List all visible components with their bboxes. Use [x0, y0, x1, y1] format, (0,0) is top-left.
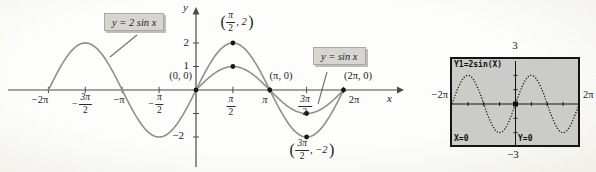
calc-ymax-label: 3: [512, 40, 518, 51]
point-label-3pi2-neg2: (3π2, −2): [289, 139, 335, 161]
x-tick-negpi2: −π2: [148, 93, 163, 115]
x-tick-negpi: −π: [113, 95, 124, 106]
fraction: π2: [155, 93, 164, 115]
fraction: 3π2: [295, 139, 309, 161]
minus-sign: −: [72, 99, 78, 109]
calc-formula: Y1=2sin(X): [454, 61, 502, 69]
coord-rest: , 2: [235, 17, 248, 28]
fraction: π2: [227, 95, 236, 117]
x-tick-pi: π: [262, 95, 267, 106]
x-tick-2pi: 2π: [349, 95, 360, 106]
x-axis-arrow: [397, 87, 404, 94]
open-paren: (: [290, 142, 295, 158]
open-paren: (: [221, 14, 226, 30]
callout-leader-lines: [110, 35, 327, 104]
coord-rest: , −2: [309, 145, 329, 156]
axes: [8, 13, 397, 167]
calculator-plot-canvas: [452, 59, 578, 145]
y-tick-2: 2: [168, 37, 189, 48]
fraction: π2: [226, 11, 235, 33]
point-label-pi2-2: (π2, 2): [220, 11, 254, 33]
calc-xmin-label: −2π: [424, 90, 448, 101]
minus-sign: −: [148, 99, 154, 109]
calc-y-readout: Y=0: [518, 135, 532, 143]
fraction: 3π2: [79, 93, 93, 115]
x-tick-neg3pi2: −3π2: [72, 93, 92, 115]
callout-y-2sinx: y = 2 sin x: [104, 13, 164, 31]
callout-y-2sinx-label: y = 2 sin x: [112, 17, 156, 28]
calc-x-readout: X=0: [454, 135, 468, 143]
callout-y-sinx: y = sin x: [313, 47, 366, 65]
fraction: 3π2: [298, 95, 312, 117]
x-tick-pi2: π2: [227, 95, 236, 117]
close-paren: ): [329, 142, 334, 158]
point-label-pi-0: (π, 0): [270, 71, 293, 82]
x-tick-neg2pi: −2π: [32, 95, 48, 106]
callout-y-sinx-label: y = sin x: [321, 51, 358, 62]
calc-xmax-label: 2π: [583, 90, 594, 101]
y-tick-neg2: −2: [163, 130, 184, 141]
point-label-origin: (0, 0): [148, 71, 192, 82]
x-tick-3pi2: 3π2: [298, 95, 312, 117]
y-axis-arrow: [193, 7, 200, 15]
calculator-screen: Y1=2sin(X) X=0 Y=0: [450, 57, 580, 147]
point-label-2pi-0: (2π, 0): [344, 71, 372, 82]
calc-ymin-label: −3: [507, 149, 519, 160]
trace-cursor: [513, 102, 518, 107]
sine-graph-canvas: [0, 0, 420, 172]
y-axis-label: y: [183, 2, 188, 13]
x-axis-label: x: [387, 93, 392, 104]
close-paren: ): [248, 14, 253, 30]
textbook-figure: y = 2 sin x y = sin x y x 2 1 −2 −2π −3π…: [0, 0, 596, 172]
